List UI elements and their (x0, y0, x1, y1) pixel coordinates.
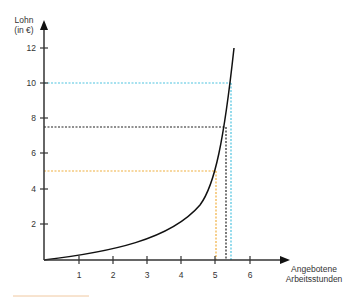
x-tick-label: 5 (213, 270, 218, 280)
y-tick-label: 6 (31, 148, 36, 158)
x-tick-label: 3 (145, 270, 150, 280)
guide-black (44, 127, 226, 260)
supply-curve (44, 48, 234, 260)
y-axis-title-line1: Lohn (15, 15, 34, 25)
x-axis-title-line1: Angebotene (291, 264, 337, 274)
x-tick-label: 2 (111, 270, 116, 280)
y-tick-label: 12 (27, 43, 37, 53)
labor-supply-chart: 12 10 8 6 4 2 1 2 3 4 5 6 Lohn (in €) An… (0, 0, 343, 300)
y-tick-label: 8 (31, 113, 36, 123)
x-axis (44, 256, 290, 264)
x-tick-label: 4 (179, 270, 184, 280)
y-tick-label: 4 (31, 184, 36, 194)
y-tick-label: 2 (31, 219, 36, 229)
y-axis-title-line2: (in €) (14, 25, 34, 35)
x-tick-label: 1 (77, 270, 82, 280)
x-tick-label: 6 (248, 270, 253, 280)
y-tick-label: 10 (27, 78, 37, 88)
x-axis-title-line2: Arbeitsstunden (286, 274, 343, 284)
